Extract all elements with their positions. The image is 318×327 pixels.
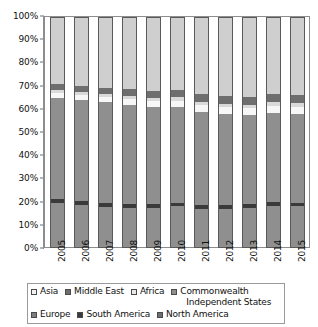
- bar-2007[interactable]: [98, 17, 113, 248]
- bar-segment: [194, 112, 209, 205]
- y-axis-tick-label: 90%: [19, 34, 38, 44]
- legend-item-label: Africa: [140, 286, 164, 297]
- bar-segment: [74, 100, 89, 201]
- bar-segment: [218, 114, 233, 205]
- bar-segment: [170, 107, 185, 202]
- bar-segment: [122, 105, 137, 204]
- legend-item-label: North America: [166, 309, 229, 320]
- bar-segment: [242, 17, 257, 97]
- x-label-wrap: 2007: [98, 249, 113, 281]
- x-label-wrap: 2009: [146, 249, 161, 281]
- bar-segment: [266, 94, 281, 102]
- y-axis-tick-label: 50%: [19, 127, 38, 137]
- bar-2012[interactable]: [218, 17, 233, 248]
- bar-2010[interactable]: [170, 17, 185, 248]
- legend-item-label: CommonwealthIndependent States: [180, 286, 271, 308]
- bar-segment: [218, 96, 233, 104]
- legend-swatch-icon: [77, 312, 83, 318]
- legend-swatch-icon: [31, 312, 37, 318]
- bar-segment: [122, 17, 137, 89]
- x-label-wrap: 2005: [50, 249, 65, 281]
- bar-segment: [98, 102, 113, 202]
- bar-group: [45, 17, 309, 248]
- bar-segment: [194, 94, 209, 101]
- x-axis-tick-label: 2013: [249, 240, 259, 262]
- bar-segment: [290, 17, 305, 95]
- legend-item-south-america[interactable]: South America: [77, 309, 150, 320]
- legend-item-europe[interactable]: Europe: [31, 309, 70, 320]
- bar-segment: [74, 17, 89, 86]
- legend-row-1: AsiaMiddle EastAfricaCommonwealthIndepen…: [31, 286, 281, 308]
- x-axis-tick-label: 2005: [57, 240, 67, 262]
- bar-segment: [266, 17, 281, 94]
- bar-segment: [290, 114, 305, 202]
- bar-segment: [242, 115, 257, 204]
- bar-segment: [146, 107, 161, 204]
- legend-item-africa[interactable]: Africa: [131, 286, 164, 297]
- legend-item-north-america[interactable]: North America: [157, 309, 229, 320]
- x-axis-tick-label: 2008: [129, 240, 139, 262]
- x-label-wrap: 2014: [266, 249, 281, 281]
- bar-segment: [290, 95, 305, 103]
- x-label-wrap: 2012: [218, 249, 233, 281]
- legend-swatch-icon: [171, 289, 177, 295]
- y-axis-tick-label: 80%: [19, 57, 38, 67]
- y-axis-line: [43, 16, 44, 249]
- legend-label-line1: Commonwealth: [180, 286, 271, 297]
- x-axis-tick-label: 2011: [201, 240, 211, 262]
- bar-segment: [170, 17, 185, 90]
- x-label-wrap: 2010: [170, 249, 185, 281]
- x-axis-tick-label: 2009: [153, 240, 163, 262]
- x-label-wrap: 2006: [74, 249, 89, 281]
- x-axis-tick-label: 2007: [105, 240, 115, 262]
- y-axis-tick-label: 100%: [13, 11, 38, 21]
- bar-segment: [98, 17, 113, 87]
- bar-segment: [242, 97, 257, 105]
- legend-swatch-icon: [31, 289, 37, 295]
- legend-item-middle-east[interactable]: Middle East: [65, 286, 124, 297]
- y-axis: 100%90%80%70%60%50%40%30%20%10%0%: [0, 10, 44, 255]
- legend-swatch-icon: [131, 289, 137, 295]
- x-axis-labels: 2005200620072008200920102011201220132014…: [45, 249, 309, 281]
- x-label-wrap: 2015: [290, 249, 305, 281]
- legend-item-asia[interactable]: Asia: [31, 286, 58, 297]
- chart-legend: AsiaMiddle EastAfricaCommonwealthIndepen…: [27, 283, 285, 324]
- x-label-wrap: 2013: [242, 249, 257, 281]
- bar-segment: [122, 89, 137, 96]
- bar-segment: [218, 17, 233, 96]
- bar-segment: [218, 107, 233, 114]
- bar-2005[interactable]: [50, 17, 65, 248]
- stacked-bar-chart: 100%90%80%70%60%50%40%30%20%10%0% 200520…: [0, 0, 318, 327]
- bar-segment: [242, 108, 257, 115]
- bar-2014[interactable]: [266, 17, 281, 248]
- bar-2006[interactable]: [74, 17, 89, 248]
- bar-segment: [170, 90, 185, 97]
- legend-swatch-icon: [65, 289, 71, 295]
- bar-segment: [50, 98, 65, 199]
- x-axis-tick-label: 2015: [297, 240, 307, 262]
- y-axis-tick-label: 0%: [24, 243, 38, 253]
- bar-segment: [146, 91, 161, 98]
- bar-2008[interactable]: [122, 17, 137, 248]
- x-label-wrap: 2008: [122, 249, 137, 281]
- y-axis-tick-label: 60%: [19, 104, 38, 114]
- y-axis-tick-label: 40%: [19, 150, 38, 160]
- x-axis-tick-label: 2012: [225, 240, 235, 262]
- legend-item-label: Europe: [40, 309, 70, 320]
- bar-segment: [266, 106, 281, 113]
- x-axis-tick-label: 2010: [177, 240, 187, 262]
- bar-2013[interactable]: [242, 17, 257, 248]
- y-axis-tick-label: 30%: [19, 173, 38, 183]
- bar-2009[interactable]: [146, 17, 161, 248]
- legend-item-label: South America: [86, 309, 150, 320]
- bar-segment: [266, 113, 281, 202]
- x-axis-tick-label: 2014: [273, 240, 283, 262]
- legend-item-commonwealth-independent-states[interactable]: CommonwealthIndependent States: [171, 286, 271, 308]
- bar-segment: [290, 107, 305, 114]
- legend-item-label: Middle East: [74, 286, 124, 297]
- bar-2011[interactable]: [194, 17, 209, 248]
- bar-2015[interactable]: [290, 17, 305, 248]
- legend-row-2: EuropeSouth AmericaNorth America: [31, 309, 281, 320]
- legend-item-label: Asia: [40, 286, 58, 297]
- bar-segment: [194, 17, 209, 94]
